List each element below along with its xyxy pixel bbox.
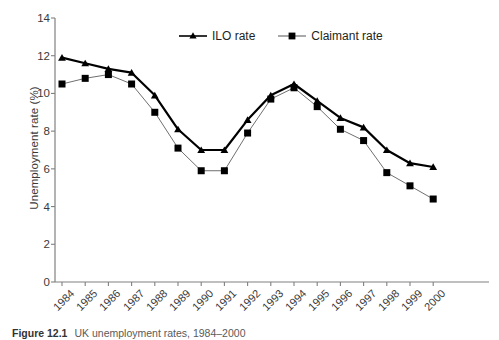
y-axis-tick-label: 14 [28, 12, 50, 24]
figure-caption-text: UK unemployment rates, 1984–2000 [74, 327, 245, 339]
data-point-marker [267, 96, 274, 103]
data-point-marker [128, 81, 135, 88]
data-point-marker [244, 130, 251, 137]
y-axis-tick-label: 10 [28, 87, 50, 99]
data-point-marker [82, 75, 89, 82]
data-point-marker [105, 71, 112, 78]
series-line-claimant-rate [62, 75, 433, 199]
y-axis-tick-label: 6 [28, 163, 50, 175]
legend-marker-triangle-icon [178, 30, 208, 42]
y-axis-tick-label: 12 [28, 50, 50, 62]
figure-caption: Figure 12.1UK unemployment rates, 1984–2… [12, 327, 492, 339]
data-point-marker [430, 196, 437, 203]
plot-area [55, 18, 489, 283]
data-point-marker [360, 137, 367, 144]
chart-canvas [55, 18, 489, 283]
data-point-marker [221, 167, 228, 174]
x-axis-tick-labels: 1984198519861987198819891990199119921993… [55, 287, 495, 327]
figure-caption-number: Figure 12.1 [12, 327, 67, 339]
data-point-marker [337, 126, 344, 133]
data-point-marker [151, 109, 158, 116]
data-point-marker [291, 84, 298, 91]
data-point-marker [175, 145, 182, 152]
y-axis-tick-label: 2 [28, 238, 50, 250]
series-line-ilo-rate [62, 58, 433, 167]
legend-item-ilo-rate: ILO rate [178, 30, 255, 42]
y-axis-tick-labels: 02468101214 [22, 18, 50, 283]
legend-item-claimant-rate: Claimant rate [277, 30, 382, 42]
data-point-marker [59, 81, 66, 88]
data-point-marker [383, 169, 390, 176]
legend-marker-square-icon [277, 30, 307, 42]
legend-label-claimant-rate: Claimant rate [311, 30, 382, 42]
figure-unemployment-rates: Unemployment rate (%) 02468101214 198419… [0, 0, 499, 340]
y-axis-tick-label: 0 [28, 276, 50, 288]
data-point-marker [198, 167, 205, 174]
data-point-marker [407, 182, 414, 189]
data-point-marker [314, 103, 321, 110]
legend-label-ilo-rate: ILO rate [212, 30, 255, 42]
chart-legend: ILO rate Claimant rate [178, 26, 383, 46]
y-axis-tick-label: 4 [28, 201, 50, 213]
y-axis-tick-label: 8 [28, 125, 50, 137]
